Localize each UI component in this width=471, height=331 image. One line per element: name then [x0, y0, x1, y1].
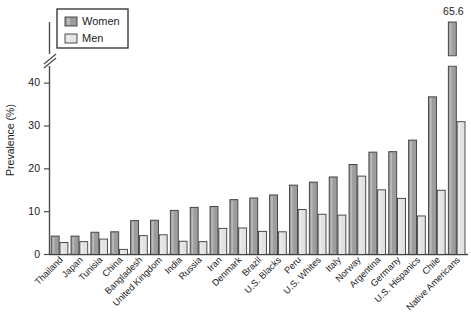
bar-women-13	[309, 182, 317, 254]
bar-women-highlight-20	[450, 67, 452, 253]
bar-women-highlight-10	[251, 199, 253, 253]
bar-women-3	[111, 232, 119, 255]
bar-men-highlight-0	[61, 244, 63, 254]
bar-women-highlight-9	[231, 201, 233, 253]
bar-women-highlight-18	[410, 141, 412, 253]
bar-men-3	[120, 249, 128, 254]
y-tick-label-0: 0	[34, 248, 40, 260]
bar-men-highlight-15	[359, 177, 361, 253]
bar-men-5	[159, 235, 167, 255]
bar-women-1	[71, 236, 79, 254]
bar-women-4	[131, 221, 139, 255]
bar-women-12	[289, 185, 297, 254]
bar-men-highlight-19	[439, 191, 441, 253]
bar-men-highlight-16	[379, 191, 381, 253]
bar-men-highlight-13	[320, 215, 322, 253]
bar-men-highlight-20	[459, 123, 461, 253]
bar-men-18	[417, 216, 425, 255]
bar-women-0	[51, 236, 59, 254]
chart-canvas: 010203040 Prevalence (%) 65.6 ThailandJa…	[0, 0, 471, 331]
bar-women-highlight-15	[350, 166, 352, 254]
bar-men-highlight-6	[181, 242, 183, 253]
y-tick-label-10: 10	[28, 205, 40, 217]
bar-break-gap-20	[446, 57, 458, 66]
bar-women-14	[329, 177, 337, 255]
bar-men-16	[378, 190, 386, 255]
bar-women-10	[250, 198, 258, 255]
bar-women-highlight-16	[370, 153, 372, 253]
bar-women-highlight-2	[92, 233, 94, 253]
gallstone-prevalence-bar-chart: 010203040 Prevalence (%) 65.6 ThailandJa…	[0, 0, 471, 331]
value-labels-layer: 65.6	[443, 5, 464, 17]
bar-women-highlight-4	[132, 222, 134, 253]
bar-men-highlight-2	[101, 240, 103, 253]
value-label-0: 65.6	[443, 5, 464, 17]
legend-label-men: Men	[82, 32, 103, 44]
bar-men-highlight-5	[161, 236, 163, 253]
bar-men-19	[437, 190, 445, 254]
bar-women-11	[270, 195, 278, 255]
bar-men-highlight-17	[399, 200, 401, 254]
bar-men-20	[457, 122, 465, 255]
bars-layer	[51, 22, 465, 255]
bar-women-highlight-0	[53, 237, 55, 253]
y-tick-label-30: 30	[28, 119, 40, 131]
bar-men-17	[398, 198, 406, 254]
bar-women-highlight-7	[192, 209, 194, 254]
bar-women-highlight-14	[331, 178, 333, 253]
bar-women-8	[210, 207, 218, 255]
y-tick-label-20: 20	[28, 162, 40, 174]
bar-women-highlight-1	[72, 237, 74, 253]
bar-women-highlight-6	[172, 212, 174, 254]
bar-men-highlight-8	[220, 230, 222, 254]
bar-women-5	[150, 220, 158, 254]
bar-men-highlight-12	[300, 211, 302, 254]
legend-swatch-highlight-0	[67, 18, 70, 25]
y-axis-title: Prevalence (%)	[4, 104, 16, 176]
bar-men-2	[100, 239, 108, 254]
legend-label-women: Women	[82, 15, 120, 27]
bar-women-top-highlight-20	[450, 23, 452, 55]
category-labels-layer: ThailandJapanTunisiaChinaBangladeshUnite…	[33, 254, 462, 312]
bar-men-9	[239, 228, 247, 255]
y-axis-break-marker	[44, 54, 56, 68]
legend-swatch-highlight-1	[67, 35, 70, 42]
bar-men-12	[298, 210, 306, 255]
legend-swatch-men	[65, 34, 77, 43]
bar-women-9	[230, 200, 238, 255]
bar-women-highlight-5	[152, 221, 154, 253]
bar-women-17	[389, 152, 397, 255]
bar-men-1	[80, 242, 88, 255]
bar-men-highlight-7	[200, 243, 202, 253]
bar-men-6	[179, 241, 187, 254]
bar-women-highlight-13	[311, 183, 313, 253]
y-tick-label-40: 40	[28, 76, 40, 88]
bar-men-14	[338, 215, 346, 254]
bar-women-highlight-19	[430, 98, 432, 253]
bar-women-top-segment-20	[448, 22, 456, 56]
chart-legend: WomenMen	[57, 9, 128, 48]
bar-men-highlight-18	[419, 217, 421, 253]
bar-men-7	[199, 242, 207, 255]
bar-men-0	[60, 243, 68, 255]
bar-men-13	[318, 214, 326, 254]
bar-men-4	[139, 236, 147, 255]
y-axis-ticks: 010203040	[28, 76, 50, 259]
bar-men-10	[259, 231, 267, 254]
bar-women-16	[369, 152, 377, 254]
category-label-7: Russia	[177, 254, 205, 282]
bar-women-6	[170, 210, 178, 254]
bar-women-highlight-12	[291, 186, 293, 253]
bar-women-20	[448, 66, 456, 255]
bar-men-15	[358, 176, 366, 254]
bar-women-7	[190, 207, 198, 254]
bar-men-highlight-14	[339, 216, 341, 253]
bar-men-highlight-3	[121, 251, 123, 254]
legend-swatch-women	[65, 17, 77, 26]
bar-women-highlight-8	[211, 208, 213, 254]
bar-women-15	[349, 165, 357, 255]
bar-men-highlight-9	[240, 229, 242, 253]
bar-women-2	[91, 232, 99, 254]
bar-men-highlight-10	[260, 233, 262, 254]
bar-women-highlight-17	[390, 153, 392, 253]
